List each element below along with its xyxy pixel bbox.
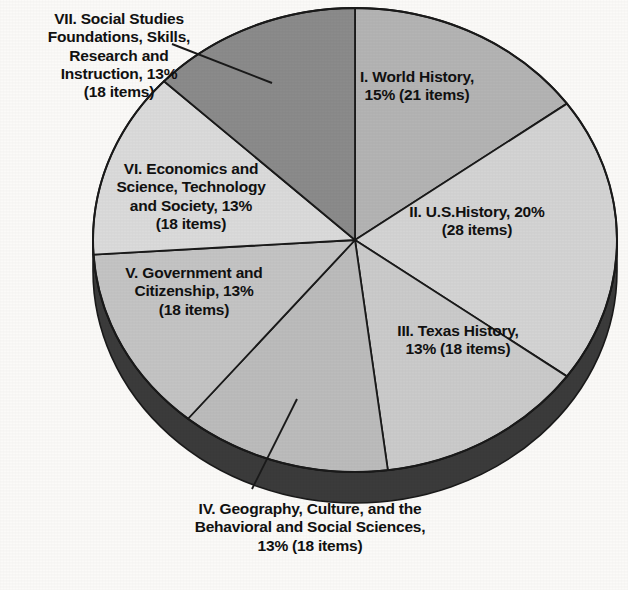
slice-label-geography: IV. Geography, Culture, and the Behavior… bbox=[130, 500, 490, 555]
slice-label-social-studies-foundations: VII. Social Studies Foundations, Skills,… bbox=[8, 10, 230, 101]
pie-chart-figure: I. World History, 15% (21 items) II. U.S… bbox=[0, 0, 628, 590]
